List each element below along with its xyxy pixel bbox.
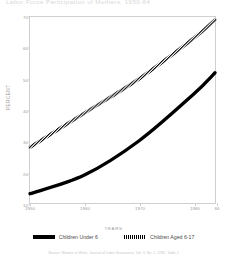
- x-axis-tick-mark: [140, 203, 141, 206]
- legend-item-children-under-6: Children Under 6: [33, 234, 98, 240]
- x-axis-tick-mark: [30, 203, 31, 206]
- hatched-bar-icon: [124, 235, 146, 240]
- x-axis-tick-label: 1950: [25, 206, 35, 211]
- x-axis-tick-label: 1980: [190, 206, 200, 211]
- series-line-children-aged-6-17: [30, 20, 215, 147]
- plot-area: 70605040302010195019601970198084: [29, 16, 216, 204]
- y-axis-tick-mark: [28, 142, 31, 143]
- y-axis-tick-mark: [28, 48, 31, 49]
- legend-label: Children Aged 6-17: [150, 234, 194, 240]
- y-axis-tick-mark: [28, 173, 31, 174]
- x-axis-tick-mark: [195, 203, 196, 206]
- x-axis-tick-mark: [217, 203, 218, 206]
- x-axis-tick-label: 1970: [135, 206, 145, 211]
- x-axis-label: YEARS: [0, 226, 227, 231]
- x-axis-tick-mark: [85, 203, 86, 206]
- chart-title: Labor Force Participation of Mothers, 19…: [6, 0, 206, 5]
- legend-item-children-aged-6-17: Children Aged 6-17: [124, 234, 194, 240]
- y-axis-tick-mark: [28, 111, 31, 112]
- chart-figure: Labor Force Participation of Mothers, 19…: [0, 0, 227, 264]
- source-note: Source: Women at Work, Journal of Labor …: [0, 251, 227, 255]
- y-axis-tick-mark: [28, 17, 31, 18]
- x-axis-tick-label: 1960: [80, 206, 90, 211]
- x-axis-tick-label: 84: [215, 206, 220, 211]
- series-lines: [30, 17, 215, 203]
- chart-legend: Children Under 6 Children Aged 6-17: [0, 234, 227, 240]
- y-axis-tick-mark: [28, 79, 31, 80]
- legend-label: Children Under 6: [59, 234, 98, 240]
- solid-bar-icon: [33, 235, 55, 240]
- y-axis-label: PERCENT: [6, 85, 11, 110]
